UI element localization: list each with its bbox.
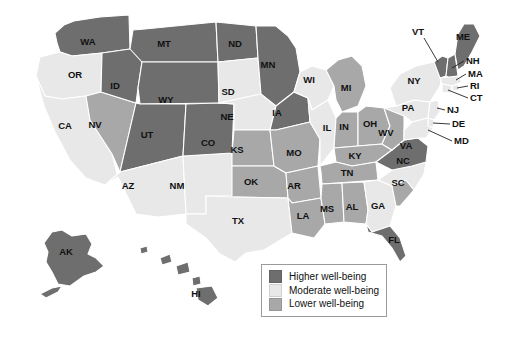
label-KS: KS: [230, 144, 243, 155]
state-NJ[interactable]: [428, 100, 440, 120]
legend-item-higher[interactable]: Higher well-being: [269, 270, 379, 284]
us-wellbeing-map: WA OR CA NV ID MT WY UT AZ NM CO ND SD N…: [0, 0, 505, 337]
legend-label-higher: Higher well-being: [289, 272, 366, 282]
label-MA: MA: [468, 68, 483, 79]
label-NV: NV: [88, 119, 102, 130]
label-OH: OH: [363, 118, 377, 129]
state-MT[interactable]: [130, 22, 218, 62]
label-IN: IN: [339, 121, 349, 132]
legend-label-lower: Lower well-being: [289, 299, 364, 309]
label-DE: DE: [452, 118, 465, 129]
label-MD: MD: [454, 135, 469, 146]
label-WA: WA: [80, 36, 95, 47]
label-FL: FL: [388, 234, 400, 245]
label-CA: CA: [58, 120, 72, 131]
label-SC: SC: [391, 177, 404, 188]
label-OR: OR: [68, 69, 82, 80]
label-AL: AL: [346, 201, 359, 212]
label-MS: MS: [320, 203, 334, 214]
label-ME: ME: [456, 31, 470, 42]
label-ID: ID: [110, 80, 120, 91]
map-legend: Higher well-being Moderate well-being Lo…: [261, 264, 387, 317]
legend-item-moderate[interactable]: Moderate well-being: [269, 284, 379, 298]
label-TN: TN: [341, 167, 354, 178]
label-NH: NH: [466, 55, 480, 66]
label-OK: OK: [244, 176, 258, 187]
label-GA: GA: [371, 200, 385, 211]
state-WY[interactable]: [138, 62, 219, 104]
state-AK[interactable]: [44, 230, 104, 286]
label-MN: MN: [261, 59, 276, 70]
label-NM: NM: [170, 180, 185, 191]
label-SD: SD: [221, 86, 234, 97]
label-WV: WV: [378, 127, 394, 138]
leader-DE: [433, 123, 450, 124]
label-AK: AK: [59, 246, 73, 257]
label-ND: ND: [228, 38, 242, 49]
label-CT: CT: [470, 92, 483, 103]
label-NY: NY: [407, 75, 421, 86]
label-PA: PA: [402, 102, 415, 113]
state-AK-aleutians[interactable]: [40, 286, 62, 298]
label-NE: NE: [220, 111, 233, 122]
label-UT: UT: [141, 129, 154, 140]
label-WI: WI: [303, 74, 315, 85]
label-NC: NC: [396, 155, 410, 166]
map-svg: WA OR CA NV ID MT WY UT AZ NM CO ND SD N…: [0, 0, 505, 337]
label-KY: KY: [348, 150, 362, 161]
label-IA: IA: [272, 107, 282, 118]
label-AZ: AZ: [122, 180, 135, 191]
label-RI: RI: [470, 80, 480, 91]
leader-MD: [428, 130, 452, 141]
label-CO: CO: [201, 137, 215, 148]
label-LA: LA: [297, 210, 310, 221]
label-TX: TX: [232, 215, 245, 226]
label-MI: MI: [341, 82, 352, 93]
label-VT: VT: [412, 26, 424, 37]
label-MT: MT: [157, 38, 171, 49]
label-HI: HI: [191, 288, 201, 299]
state-HI[interactable]: [140, 246, 218, 306]
label-AR: AR: [287, 180, 301, 191]
legend-item-lower[interactable]: Lower well-being: [269, 297, 379, 311]
label-VA: VA: [400, 140, 413, 151]
leader-VT: [424, 38, 438, 62]
state-CT[interactable]: [442, 84, 452, 93]
leader-CT: [448, 90, 468, 98]
label-MO: MO: [286, 147, 301, 158]
legend-label-moderate: Moderate well-being: [289, 286, 379, 296]
label-IL: IL: [323, 122, 332, 133]
legend-swatch-moderate: [269, 284, 282, 297]
label-NJ: NJ: [447, 104, 459, 115]
legend-swatch-higher: [269, 270, 282, 283]
legend-swatch-lower: [269, 298, 282, 311]
label-WY: WY: [158, 94, 174, 105]
